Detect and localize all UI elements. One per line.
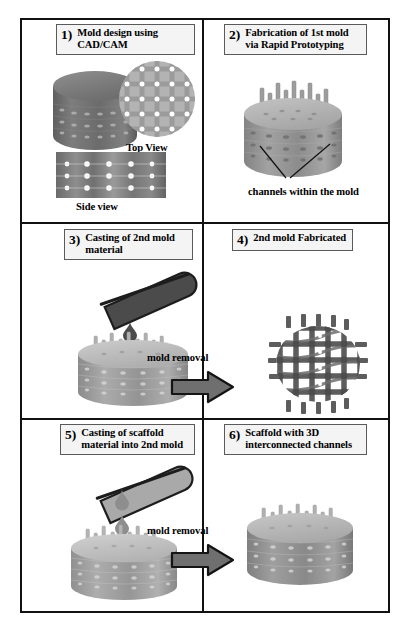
- panel-3-number: 3): [69, 232, 80, 247]
- arrow-row3-icon: [170, 543, 236, 577]
- panel-4-caption: 2nd mold Fabricated: [253, 232, 346, 244]
- panel-1-side-view-label: Side view: [76, 201, 118, 214]
- panel-1-top-view-disc: [118, 60, 196, 138]
- arrow-row3-label: mold removal: [147, 525, 208, 538]
- panel-4-number: 4): [237, 232, 248, 247]
- arrow-row2-label: mold removal: [147, 352, 208, 365]
- panel-1: 1) Mold design using CAD/CAM: [22, 20, 202, 222]
- panel-5-pipette-icon: [96, 466, 202, 512]
- panel-5-caption-box: 5) Casting of scaffold material into 2nd…: [60, 424, 195, 455]
- panel-6-number: 6): [229, 427, 240, 442]
- panel-1-caption-box: 1) Mold design using CAD/CAM: [56, 24, 195, 55]
- panel-2-caption-box: 2) Fabrication of 1st mold via Rapid Pro…: [224, 24, 367, 55]
- panel-5-number: 5): [65, 427, 76, 442]
- panel-2-caption: Fabrication of 1st mold via Rapid Protot…: [245, 27, 361, 51]
- panel-6-scaffold-cylinder: [240, 502, 364, 594]
- panel-1-caption: Mold design using CAD/CAM: [77, 27, 189, 51]
- arrow-row2-icon: [170, 370, 236, 404]
- panel-2-channels-label: channels within the mold: [248, 186, 378, 199]
- panel-3-caption-box: 3) Casting of 2nd mold material: [64, 229, 193, 260]
- panel-6-caption: Scaffold with 3D interconnected channels: [245, 427, 361, 451]
- panel-3-droplet-upper: [122, 294, 138, 316]
- panel-5-droplet-upper: [114, 488, 130, 510]
- panel-5-caption: Casting of scaffold material into 2nd mo…: [81, 427, 189, 451]
- panel-5: 5) Casting of scaffold material into 2nd…: [22, 420, 202, 615]
- panel-3-pipette-icon: [100, 272, 202, 318]
- panel-2: 2) Fabrication of 1st mold via Rapid Pro…: [204, 20, 392, 222]
- panel-6: 6) Scaffold with 3D interconnected chann…: [204, 420, 392, 615]
- panel-1-side-view-image: [56, 152, 166, 198]
- panel-4-caption-box: 4) 2nd mold Fabricated: [232, 229, 353, 251]
- panel-2-leader-lines: [238, 130, 348, 190]
- panel-3-caption: Casting of 2nd mold material: [85, 232, 187, 256]
- panel-6-caption-box: 6) Scaffold with 3D interconnected chann…: [224, 424, 367, 455]
- panel-2-number: 2): [229, 27, 240, 42]
- panel-4-second-mold-lattice: [268, 314, 368, 414]
- panel-1-number: 1): [61, 27, 72, 42]
- process-flow-figure: 1) Mold design using CAD/CAM: [20, 18, 390, 613]
